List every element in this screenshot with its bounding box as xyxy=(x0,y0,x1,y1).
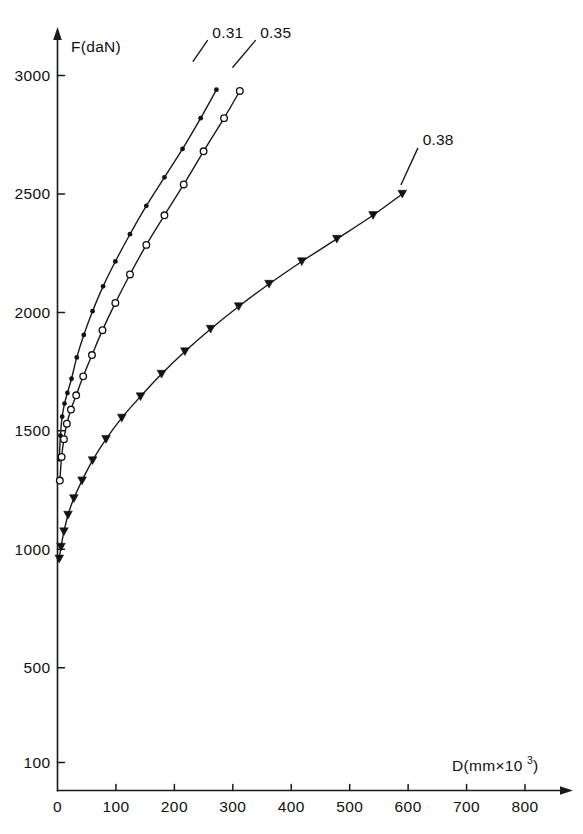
data-point-marker xyxy=(88,457,97,465)
data-point-marker xyxy=(57,477,64,484)
data-point-marker xyxy=(74,355,79,360)
x-axis-arrow-icon xyxy=(560,786,573,795)
data-point-marker xyxy=(162,175,167,180)
data-point-marker xyxy=(69,376,74,381)
y-tick-label: 1000 xyxy=(14,541,50,558)
data-point-marker xyxy=(80,373,87,380)
x-tick-label: 800 xyxy=(511,798,538,815)
series-0-31 xyxy=(57,87,219,461)
y-tick-label: 1500 xyxy=(14,422,50,439)
data-point-marker xyxy=(198,116,203,121)
curve-line xyxy=(59,194,402,559)
series-label-0-31: 0.31 xyxy=(212,24,243,41)
y-tick-label: 100 xyxy=(23,754,50,771)
x-axis-title-base: D(mm×10 xyxy=(452,757,523,774)
data-point-marker xyxy=(112,300,119,307)
series-0-38 xyxy=(55,190,407,563)
data-point-marker xyxy=(214,87,219,92)
series-0-35 xyxy=(57,88,244,484)
x-tick-label: 300 xyxy=(219,798,246,815)
x-tick-label: 700 xyxy=(453,798,480,815)
data-point-marker xyxy=(200,148,207,155)
series-layer xyxy=(55,87,407,563)
data-point-marker xyxy=(64,511,73,519)
curve-line xyxy=(59,90,216,460)
chart-page: 10050010001500200025003000 0100200300400… xyxy=(0,0,583,834)
data-point-marker xyxy=(68,406,75,413)
y-axis-arrow-icon xyxy=(53,27,62,40)
force-displacement-chart: 10050010001500200025003000 0100200300400… xyxy=(0,0,583,834)
series-label-leader xyxy=(233,41,255,68)
x-axis-title-close: ) xyxy=(533,757,538,774)
data-point-marker xyxy=(64,420,71,427)
data-point-marker xyxy=(70,495,79,503)
y-axis-title: F(daN) xyxy=(71,38,121,55)
data-point-marker xyxy=(180,147,185,152)
data-point-marker xyxy=(102,435,111,443)
x-axis-ticks: 0100200300400500600700800 xyxy=(53,785,539,815)
x-tick-label: 0 xyxy=(53,798,62,815)
x-tick-label: 500 xyxy=(336,798,363,815)
y-tick-label: 500 xyxy=(23,659,50,676)
x-axis-group xyxy=(58,786,574,795)
y-axis-group xyxy=(53,27,62,791)
data-point-marker xyxy=(221,115,228,122)
data-point-marker xyxy=(144,203,149,208)
data-point-marker xyxy=(65,391,70,396)
data-point-marker xyxy=(90,309,95,314)
data-point-marker xyxy=(55,555,64,563)
data-point-marker xyxy=(127,271,134,278)
data-point-marker xyxy=(297,258,306,266)
data-point-marker xyxy=(62,401,67,406)
data-point-marker xyxy=(61,436,68,443)
y-tick-label: 2500 xyxy=(14,185,50,202)
data-point-marker xyxy=(333,235,342,243)
data-point-marker xyxy=(101,284,106,289)
x-tick-label: 600 xyxy=(395,798,422,815)
data-point-marker xyxy=(60,414,65,419)
x-tick-label: 100 xyxy=(102,798,129,815)
series-label-0-35: 0.35 xyxy=(260,24,291,41)
data-point-marker xyxy=(128,232,133,237)
data-point-marker xyxy=(369,212,378,220)
data-point-marker xyxy=(161,212,168,219)
data-point-marker xyxy=(113,259,118,264)
x-tick-label: 400 xyxy=(278,798,305,815)
data-point-marker xyxy=(78,477,87,485)
data-point-marker xyxy=(89,352,96,359)
curve-line xyxy=(60,91,240,481)
data-point-marker xyxy=(58,454,65,461)
y-tick-label: 3000 xyxy=(14,67,50,84)
data-point-marker xyxy=(60,528,69,536)
data-point-marker xyxy=(81,333,86,338)
data-point-marker xyxy=(73,392,80,399)
x-axis-title-group: D(mm×10 3 ) xyxy=(452,754,538,774)
data-point-marker xyxy=(99,327,106,334)
y-tick-label: 2000 xyxy=(14,304,50,321)
series-label-leader xyxy=(193,41,207,62)
data-point-marker xyxy=(180,181,187,188)
x-tick-label: 200 xyxy=(161,798,188,815)
data-point-marker xyxy=(143,242,150,249)
series-label-0-38: 0.38 xyxy=(423,131,454,148)
data-point-marker xyxy=(237,88,244,95)
series-label-leader xyxy=(401,148,418,184)
